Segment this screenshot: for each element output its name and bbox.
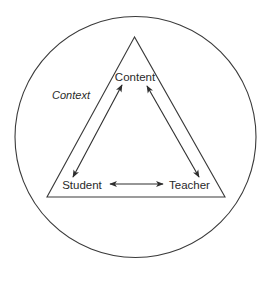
node-label-student: Student [62, 179, 102, 191]
triangle [47, 37, 225, 197]
arrow-content-teacher [147, 86, 199, 177]
context-circle [15, 17, 256, 258]
node-label-teacher: Teacher [169, 179, 210, 191]
node-label-content: Content [115, 71, 156, 83]
context-label: Context [52, 89, 91, 101]
didactic-triangle-diagram: Content Student Teacher Context [0, 0, 270, 281]
